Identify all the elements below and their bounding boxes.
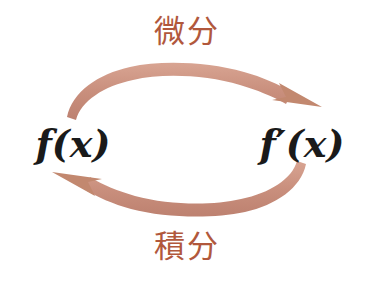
label-differentiation: 微分 [0, 16, 374, 47]
integrate-arrow-graphic [52, 161, 306, 217]
node-function-fx: f(x) [18, 125, 128, 163]
diagram-canvas: 微分 f(x) f′(x) 積分 [0, 0, 374, 281]
label-integration: 積分 [0, 231, 374, 262]
node-derivative-fprimex: f′(x) [243, 125, 361, 163]
differentiate-arrow-graphic [67, 63, 322, 120]
